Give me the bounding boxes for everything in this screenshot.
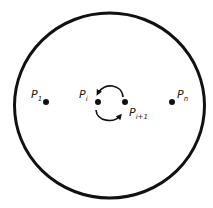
point-dot	[95, 99, 101, 105]
point-label: Pn	[177, 88, 188, 103]
lower-swap-arrow	[96, 110, 120, 120]
point-label: Pi	[79, 88, 88, 103]
point-dot	[122, 99, 128, 105]
point-dot	[169, 99, 175, 105]
points-layer: P1PiPi+1Pn	[31, 88, 188, 121]
point-label: P1	[31, 88, 42, 103]
point-p1: P1	[31, 88, 49, 105]
upper-swap-arrow	[98, 86, 123, 97]
point-pi1: Pi+1	[122, 99, 148, 121]
point-pi: Pi	[79, 88, 101, 105]
point-pn: Pn	[169, 88, 188, 105]
point-dot	[43, 99, 49, 105]
disk-boundary	[15, 13, 205, 198]
braid-diagram: P1PiPi+1Pn	[0, 0, 213, 208]
point-label: Pi+1	[129, 106, 148, 121]
